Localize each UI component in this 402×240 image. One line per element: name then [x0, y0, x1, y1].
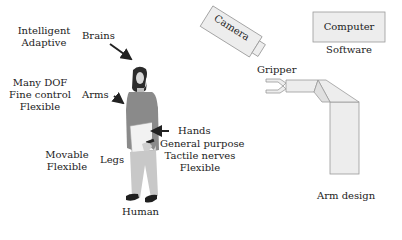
trait-flexible: Flexible: [4, 101, 76, 113]
hands-label: Hands: [178, 125, 211, 137]
trait-adaptive: Adaptive: [14, 37, 74, 49]
software-label: Software: [313, 44, 385, 56]
brains-arrow: [110, 44, 131, 59]
trait-fine-control: Fine control: [4, 89, 76, 101]
human-figure: [126, 67, 159, 203]
trait-movable: Movable: [44, 149, 90, 161]
gripper-label: Gripper: [257, 64, 296, 76]
legs-traits: Movable Flexible: [44, 149, 90, 173]
trait-flexible-hands: Flexible: [160, 162, 240, 174]
trait-general-purpose: General purpose: [160, 138, 240, 150]
human-title: Human: [122, 206, 159, 218]
brains-label: Brains: [82, 30, 115, 42]
arms-arrow: [114, 96, 123, 103]
trait-intelligent: Intelligent: [14, 25, 74, 37]
computer-label: Computer: [313, 21, 385, 33]
legs-label: Legs: [100, 154, 124, 166]
robot-arm-graphic: [266, 79, 359, 174]
arms-traits: Many DOF Fine control Flexible: [4, 77, 76, 113]
hands-traits: General purpose Tactile nerves Flexible: [160, 138, 240, 174]
trait-tactile-nerves: Tactile nerves: [160, 150, 240, 162]
trait-flexible-legs: Flexible: [44, 161, 90, 173]
trait-many-dof: Many DOF: [4, 77, 76, 89]
arm-design-label: Arm design: [317, 190, 375, 202]
brains-traits: Intelligent Adaptive: [14, 25, 74, 49]
arms-label: Arms: [82, 89, 109, 101]
